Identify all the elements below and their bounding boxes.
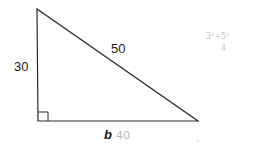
- handwritten-note: 3²+5²: [206, 33, 229, 41]
- handwritten-mark: 4: [221, 45, 226, 53]
- base-handwritten-answer: 40: [116, 130, 130, 141]
- left-side-label: 30: [14, 60, 28, 73]
- base-label: b: [104, 128, 112, 141]
- triangle-figure: [0, 0, 258, 149]
- hypotenuse-label: 50: [111, 42, 125, 55]
- right-angle-marker: [38, 112, 48, 121]
- triangle: [37, 9, 198, 121]
